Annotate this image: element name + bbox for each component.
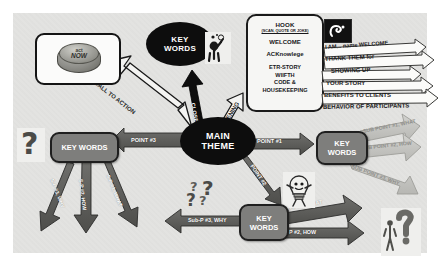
act-now-button-top[interactable]: act NOW	[59, 43, 99, 64]
lightbulb-character-icon	[283, 172, 315, 208]
key-words-bottom-line1: KEY	[256, 214, 271, 223]
hook-item-welcome: WELCOME	[269, 39, 300, 45]
node-key-words-right[interactable]: KEY WORDS	[316, 131, 368, 165]
question-mark-icon: ?	[17, 128, 45, 162]
ribbon-label-benefits: BENEFITS TO CLIENTS	[324, 92, 391, 98]
key-words-right-line2: WORDS	[328, 148, 357, 157]
node-key-words-top[interactable]: KEY WORDS	[146, 22, 214, 66]
hook-item-etr-story: ETR-STORY	[269, 64, 301, 70]
person-with-question-mark-icon	[381, 208, 421, 256]
arrow-point-2	[240, 152, 281, 205]
arrow-sub-left-why	[40, 161, 74, 231]
question-mark-cluster-icon: ? ? ? ?	[186, 180, 232, 216]
hook-item-acknowledge: ACKnowlege	[266, 51, 303, 57]
hook-item-code: CODE &	[274, 79, 296, 85]
node-key-words-left[interactable]: KEY WORDS	[50, 132, 119, 163]
key-words-right-line1: KEY	[334, 139, 349, 148]
arrow-sub-right-why	[349, 160, 418, 194]
arrow-sub-right-what	[360, 114, 420, 142]
arrow-call-to-action	[114, 56, 192, 128]
key-words-top-line2: WORDS	[164, 44, 196, 53]
hook-subtitle: (SCAN, QUOTE OR JOKE)	[261, 29, 308, 33]
key-words-bottom-line2: WORDS	[250, 223, 279, 232]
arrow-point-1	[250, 133, 314, 155]
key-words-top-line1: KEY	[164, 35, 196, 44]
node-main-theme[interactable]: MAIN THEME	[180, 117, 256, 165]
arrow-point-3	[112, 128, 185, 152]
node-key-words-bottom[interactable]: KEY WORDS	[239, 204, 289, 241]
key-words-left-label: KEY WORDS	[61, 143, 107, 152]
main-theme-line2: THEME	[202, 141, 235, 151]
act-now-label-line2: NOW	[71, 53, 87, 60]
act-now-box[interactable]: act NOW	[35, 33, 121, 85]
hook-item-wiifth: WIIFTH	[275, 72, 294, 78]
ribbon-label-your-story: YOUR STORY	[326, 80, 365, 86]
hook-panel[interactable]: HOOK (SCAN, QUOTE OR JOKE) WELCOME ACKno…	[246, 14, 324, 112]
diagram-canvas: CALL TO ACTION CLOSE OPENING POINT #3 PO…	[0, 0, 440, 273]
hook-title: HOOK	[276, 21, 295, 28]
arrow-sub-left-how	[74, 161, 98, 233]
arrow-sub-left-what	[100, 158, 138, 227]
hook-item-housekeeping: HOUSEKEEPING	[262, 87, 307, 93]
main-theme-line1: MAIN	[202, 131, 235, 141]
speaker-figure-icon	[205, 32, 231, 64]
